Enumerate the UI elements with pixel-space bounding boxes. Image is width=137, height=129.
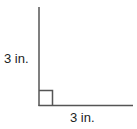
vertical-side-label: 3 in. xyxy=(4,52,29,65)
right-angle-marker xyxy=(39,91,53,106)
horizontal-side-label: 3 in. xyxy=(70,111,95,124)
